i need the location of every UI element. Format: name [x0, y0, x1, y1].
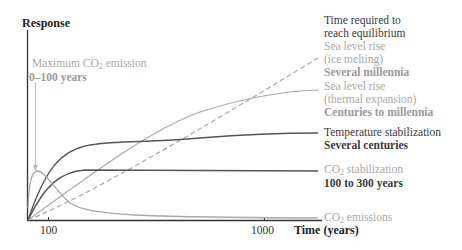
- curve-co2-emissions: [28, 171, 318, 218]
- x-tick-label-1000: 1000: [251, 224, 274, 237]
- ice-label-line2: (ice melting): [324, 53, 383, 66]
- co2-emissions-label: CO2 emissions: [324, 211, 392, 224]
- max-co2-range: 0–100 years: [29, 71, 87, 84]
- temp-label: Temperature stabilization: [324, 126, 441, 139]
- arrow-head-icon: [33, 165, 38, 171]
- x-axis-label: Time (years): [294, 224, 359, 237]
- temp-equilibrium: Several centuries: [324, 139, 408, 152]
- ice-equilibrium: Several millennia: [324, 66, 409, 79]
- ice-label-line1: Sea level rise: [324, 40, 385, 53]
- curve-temperature: [28, 133, 318, 220]
- y-axis-label: Response: [22, 17, 70, 30]
- curve-co2-stabilization: [28, 170, 318, 220]
- co2-stabilization-label: CO2 stabilization: [324, 163, 403, 176]
- x-tick-label-100: 100: [40, 224, 57, 237]
- max-co2-label: Maximum CO2 emission: [32, 57, 147, 70]
- legend-header-line2: reach equilibrium: [324, 27, 405, 40]
- thermal-label-line1: Sea level rise: [324, 80, 385, 93]
- thermal-label-line2: (thermal expansion): [324, 93, 416, 106]
- legend-header-line1: Time required to: [324, 14, 401, 27]
- thermal-equilibrium: Centuries to millennia: [324, 106, 433, 119]
- curve-thermal-expansion: [28, 90, 318, 220]
- co2-stabilization-equilibrium: 100 to 300 years: [324, 177, 403, 190]
